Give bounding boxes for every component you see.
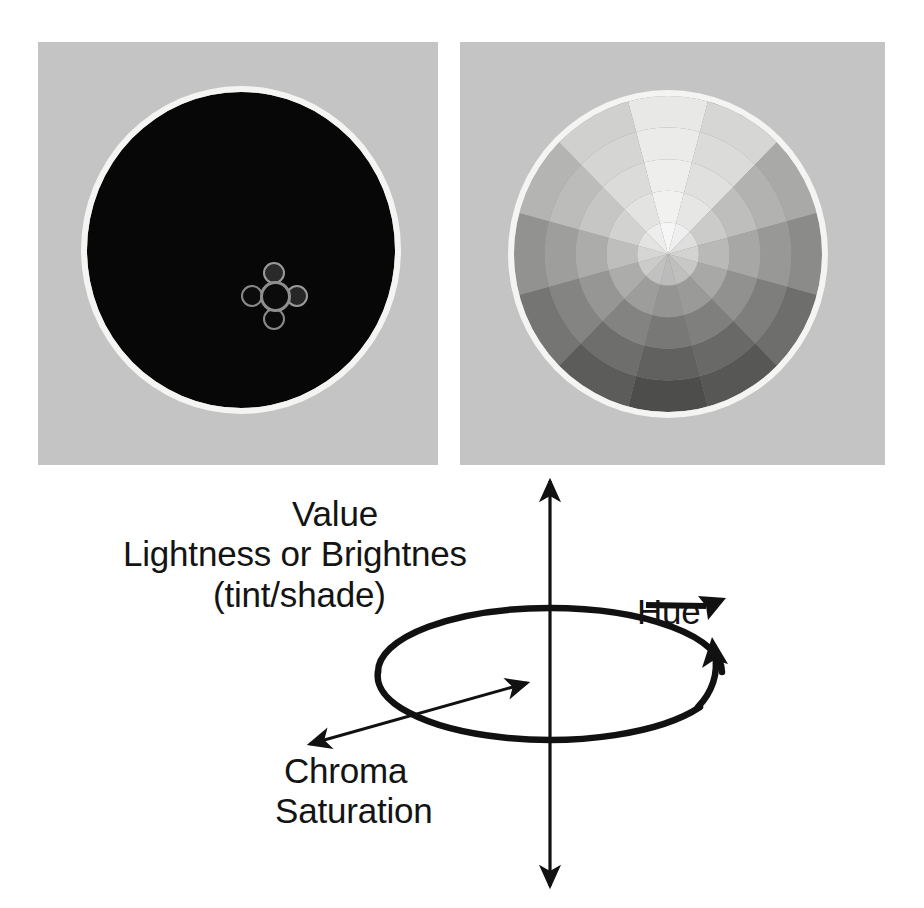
label-saturation: Saturation	[275, 791, 433, 831]
color-picker-widget-left[interactable]	[241, 262, 309, 330]
label-chroma: Chroma	[284, 751, 407, 791]
label-tint-shade: (tint/shade)	[213, 575, 386, 615]
color-space-axes-diagram	[0, 0, 924, 908]
label-value: Value	[292, 494, 378, 534]
label-hue: Hue	[637, 592, 701, 632]
figure-canvas: Value Lightness or Brightnes (tint/shade…	[0, 0, 924, 908]
picker-hub[interactable]	[260, 281, 291, 312]
label-lightness-or-brightness: Lightness or Brightnes	[123, 534, 467, 574]
hue-ellipse-front	[378, 672, 700, 740]
